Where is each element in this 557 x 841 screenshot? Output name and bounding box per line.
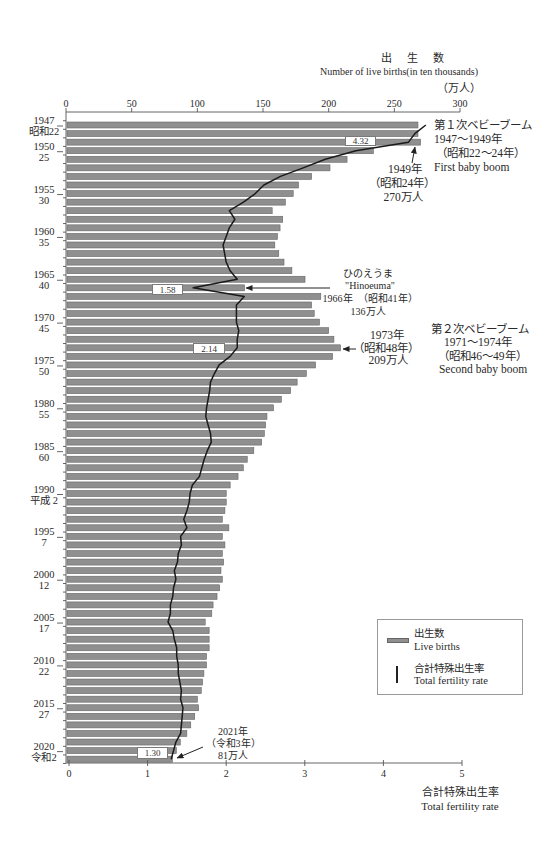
bar-1997 <box>67 551 222 557</box>
bar-2014 <box>67 696 197 702</box>
top-axis-tick-label: 100 <box>190 98 205 109</box>
bar-1989 <box>67 482 230 488</box>
bar-1968 <box>67 302 312 308</box>
era-label: 22 <box>39 666 50 677</box>
bar-1983 <box>67 431 264 437</box>
bar-1980 <box>67 405 274 411</box>
year-label: 1985 <box>34 441 55 452</box>
annotation-line: （昭和48年） <box>353 343 420 355</box>
top-axis-tick-label: 300 <box>453 98 468 109</box>
bottom-axis-tick-label: 4 <box>381 768 386 779</box>
year-label: 2020 <box>34 741 55 752</box>
annotation-line: 1973年 <box>370 330 404 342</box>
annotation-line: Second baby boom <box>439 364 527 376</box>
live-births-bar-series <box>67 122 421 762</box>
bar-2003 <box>67 602 213 608</box>
era-label: 平成 2 <box>30 495 58 506</box>
bar-1975 <box>67 362 316 368</box>
chart-legend: 出生数 Live births 合計特殊出生率 Total fertility … <box>377 619 523 695</box>
era-label: 7 <box>41 537 46 548</box>
bar-2009 <box>67 653 207 659</box>
year-label: 1975 <box>34 355 55 366</box>
value-label-2021: 1.30 <box>137 747 168 759</box>
annotation-line: 1966年 （昭和41年） <box>323 294 418 304</box>
annotation-line: 2021年 <box>218 727 248 737</box>
bar-2008 <box>67 645 209 651</box>
bar-1965 <box>67 276 305 282</box>
era-label: 40 <box>39 280 50 291</box>
bar-2005 <box>67 619 205 625</box>
bar-1947 <box>67 122 418 128</box>
annotation-line: （昭和24年） <box>369 178 436 190</box>
bar-2017 <box>67 722 191 728</box>
value-label-1966: 1.58 <box>152 284 183 295</box>
annotation-line: First baby boom <box>434 162 509 174</box>
annotation-line: 第２次ベビーブーム <box>431 324 529 336</box>
bar-1971 <box>67 328 329 334</box>
annotation-line: "Hinoeuma" <box>345 281 395 291</box>
top-axis-tick-label: 200 <box>321 98 336 109</box>
era-label: 30 <box>39 195 50 206</box>
bar-1995 <box>67 533 222 539</box>
bar-1950 <box>67 148 373 154</box>
bar-1963 <box>67 259 284 265</box>
bar-2011 <box>67 670 204 676</box>
annotation-line: 1949年 <box>388 164 422 176</box>
bar-1979 <box>67 396 281 402</box>
bar-1999 <box>67 568 221 574</box>
annotation-line: ひのえうま <box>343 269 393 279</box>
bar-1985 <box>67 448 254 454</box>
bar-2015 <box>67 705 199 711</box>
value-label-1973: 2.14 <box>193 343 225 354</box>
era-label: 令和2 <box>31 751 56 763</box>
annotation-line: 209万人 <box>368 355 407 367</box>
bar-1988 <box>67 473 238 479</box>
year-label: 2005 <box>34 612 55 623</box>
bottom-axis-tick-label: 0 <box>67 768 72 779</box>
bar-2007 <box>67 636 209 642</box>
year-label: 1960 <box>34 226 55 237</box>
legend-births-label-jp: 出生数 <box>414 629 444 640</box>
bar-1956 <box>67 199 285 205</box>
bar-2004 <box>67 610 212 616</box>
bar-1958 <box>67 216 283 222</box>
bar-2002 <box>67 593 217 599</box>
year-label: 1965 <box>34 269 55 280</box>
legend-tfr-label-en: Total fertility rate <box>414 676 488 687</box>
annotation-line: 81万人 <box>218 751 248 761</box>
legend-bar-swatch-icon <box>387 638 409 643</box>
bar-1982 <box>67 422 266 428</box>
year-label: 1970 <box>34 312 55 323</box>
bar-1972 <box>67 336 334 342</box>
value-label-1949: 4.32 <box>345 136 376 146</box>
year-label: 1995 <box>34 526 55 537</box>
bar-1960 <box>67 233 277 239</box>
bar-1978 <box>67 388 291 394</box>
bar-1993 <box>67 516 222 522</box>
era-label: 昭和22 <box>29 126 60 137</box>
bar-1952 <box>67 165 330 171</box>
arrow-1949 <box>412 147 415 163</box>
year-label: 1950 <box>34 141 55 152</box>
year-label: 1980 <box>34 398 55 409</box>
top-axis-tick-label: 150 <box>256 98 271 109</box>
bar-2018 <box>67 730 187 736</box>
bottom-axis-tick-label: 5 <box>460 768 465 779</box>
annotation-line: 1947～1949年 <box>434 134 502 146</box>
bar-2012 <box>67 679 203 685</box>
bar-1986 <box>67 456 247 462</box>
bar-1981 <box>67 413 267 419</box>
bar-1987 <box>67 465 243 471</box>
bar-2019 <box>67 739 180 745</box>
annotation-line: （昭和46～49年） <box>438 351 527 363</box>
era-label: 25 <box>39 152 50 163</box>
bottom-axis-tick-label: 3 <box>302 768 307 779</box>
bar-1961 <box>67 242 275 248</box>
year-label: 1955 <box>34 184 55 195</box>
bar-1984 <box>67 439 262 445</box>
era-label: 45 <box>39 323 50 334</box>
annotation-line: （令和3年） <box>206 739 261 749</box>
era-label: 12 <box>39 580 50 591</box>
top-axis-unit: （万人） <box>437 83 481 94</box>
legend-tfr-label-jp: 合計特殊出生率 <box>414 664 484 675</box>
